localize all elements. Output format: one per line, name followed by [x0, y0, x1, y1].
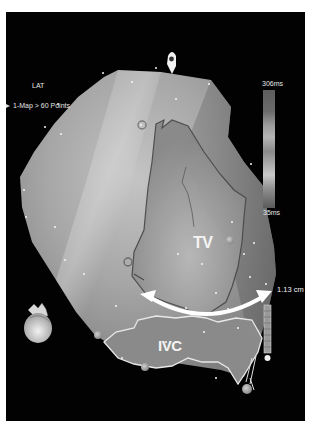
ruler-end-dot [265, 355, 271, 361]
map-info-label[interactable]: 1-Map > 60 Points [6, 102, 70, 109]
tv-annotation: TV [193, 234, 212, 252]
ivc-annotation: IVC [158, 337, 182, 354]
electroanatomic-map-viewport[interactable]: LAT 1-Map > 60 Points 306ms 35ms 1.13 cm… [6, 12, 305, 421]
lat-colorbar[interactable] [263, 90, 275, 208]
orientation-heart-icon[interactable] [24, 303, 52, 343]
map-info-text: 1-Map > 60 Points [13, 102, 70, 109]
map-type-label: LAT [32, 82, 44, 89]
colorbar-min-label: 35ms [263, 209, 280, 216]
distance-measurement-label: 1.13 cm [277, 285, 304, 294]
3d-chamber-map[interactable] [6, 12, 305, 421]
colorbar-max-label: 306ms [262, 80, 283, 87]
catheter-tip-icon[interactable] [167, 52, 176, 74]
expand-arrow-icon[interactable] [6, 103, 10, 109]
